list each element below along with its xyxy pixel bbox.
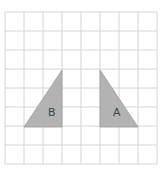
triangle-a-label: A [113, 106, 121, 119]
grid-lines [5, 12, 157, 164]
grid-diagram: B A [0, 0, 163, 174]
triangle-b-label: B [48, 106, 56, 119]
